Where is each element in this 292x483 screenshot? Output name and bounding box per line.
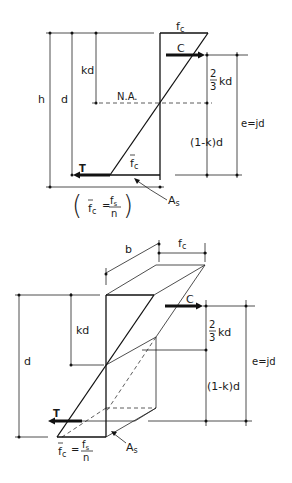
bottom-diagram: b fc C T d kd 2 3 kd (1-k)d e=jd As fc =… (15, 237, 276, 463)
eq-lhs: fc (88, 202, 96, 216)
b-dimension-line (106, 243, 159, 273)
two-label: 2 (209, 319, 215, 330)
two-label: 2 (210, 68, 216, 79)
stress-diagram-figure: fc C T h d kd N.A. 2 3 kd (1-k)d e=jd fc… (0, 0, 292, 483)
dim-tick (158, 243, 161, 246)
arrow-head-icon (198, 52, 205, 59)
one-minus-k-d-label: (1-k)d (207, 380, 240, 393)
dim-tick (245, 305, 248, 308)
t-label: T (53, 408, 60, 419)
dim-tick (245, 420, 248, 423)
dim-tick (205, 420, 208, 423)
e-jd-label: e=jd (252, 356, 276, 367)
dim-tick (70, 294, 73, 297)
top-face-right-edge (154, 265, 205, 295)
d-label: d (24, 355, 31, 368)
dim-tick (95, 32, 98, 35)
arrow-head-icon (196, 303, 203, 310)
as-leader-line (136, 180, 167, 200)
dim-tick (158, 252, 161, 255)
kd-label: kd (81, 64, 94, 77)
dim-tick (205, 349, 208, 352)
b-label: b (125, 243, 132, 256)
dim-tick (236, 54, 239, 57)
paren-open: ( (72, 190, 82, 220)
fc-label: fc (178, 237, 186, 251)
fc-bar-label: fc (130, 157, 138, 171)
eq-equals: = (71, 444, 79, 455)
three-label: 3 (209, 332, 215, 343)
top-diagram: fc C T h d kd N.A. 2 3 kd (1-k)d e=jd fc… (38, 20, 265, 220)
dim-tick (206, 174, 209, 177)
d-label: d (61, 93, 68, 106)
dim-tick (71, 32, 74, 35)
h-label: h (38, 93, 45, 106)
eq-num: fs (110, 195, 118, 208)
dim-tick (236, 174, 239, 177)
dim-tick (206, 102, 209, 105)
eq-den: n (83, 452, 89, 463)
dim-tick (159, 186, 162, 189)
dim-tick (105, 273, 108, 276)
back-stress-diagonal (156, 265, 205, 337)
eq-den: n (111, 208, 117, 219)
three-label: 3 (210, 81, 216, 92)
as-label: As (168, 194, 180, 208)
na-plane-edge (106, 337, 156, 365)
as-label: As (126, 441, 138, 455)
top-face-left-edge (106, 265, 156, 295)
eq-lhs: fc (58, 445, 66, 459)
kd-label: kd (76, 324, 89, 337)
hidden-diagonal (106, 337, 156, 412)
one-minus-k-d-label: (1-k)d (190, 136, 223, 149)
e-jd-label: e=jd (241, 118, 265, 129)
eq-num: fs (82, 439, 90, 452)
paren-close: ) (123, 190, 133, 220)
dim-tick (49, 32, 52, 35)
c-label: C (177, 42, 185, 55)
arrow-head-icon (134, 178, 140, 184)
bottom-face-edge (135, 408, 156, 421)
dim-tick (205, 305, 208, 308)
fc-label: fc (176, 20, 184, 34)
t-label: T (79, 163, 86, 174)
two-thirds-kd-label: kd (218, 326, 231, 339)
na-label: N.A. (117, 91, 138, 102)
dim-tick (204, 252, 207, 255)
two-thirds-kd-label: kd (219, 75, 232, 88)
c-label: C (186, 293, 194, 306)
dim-tick (206, 54, 209, 57)
dim-tick (18, 294, 21, 297)
